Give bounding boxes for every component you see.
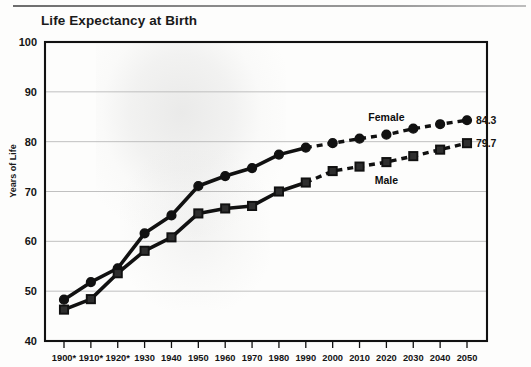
data-point-female-1940 <box>167 211 176 220</box>
x-tick-label-1940: 1940 <box>161 353 182 363</box>
data-point-male-2010 <box>355 162 363 170</box>
data-point-female-1970 <box>248 164 257 173</box>
data-point-female-1910star <box>86 278 95 287</box>
series-label-male: Male <box>375 174 399 186</box>
data-point-male-1950 <box>194 209 202 217</box>
data-point-female-2030 <box>409 124 418 133</box>
data-point-male-2050 <box>463 139 471 147</box>
x-tick-label-1960: 1960 <box>215 353 236 363</box>
data-point-female-1960 <box>221 172 230 181</box>
x-tick-label-2050: 2050 <box>457 353 478 363</box>
series-lines <box>64 120 467 309</box>
data-point-male-2020 <box>382 158 390 166</box>
series-annotations: 84.379.7FemaleMale <box>368 111 496 186</box>
y-tick-label-70: 70 <box>25 186 37 198</box>
chart-page: Life Expectancy at Birth Years of Life 4… <box>0 0 531 367</box>
x-tick-label-1950: 1950 <box>188 353 209 363</box>
data-point-female-2000 <box>328 139 337 148</box>
data-point-male-1960 <box>221 204 229 212</box>
data-point-male-1970 <box>248 202 256 210</box>
data-point-female-1900star <box>60 295 69 304</box>
x-axis-ticks: 1900*1910*1920*1930194019501960197019801… <box>52 341 478 363</box>
data-point-female-1930 <box>140 229 149 238</box>
data-point-male-2040 <box>436 146 444 154</box>
x-tick-label-2020: 2020 <box>376 353 397 363</box>
y-tick-label-90: 90 <box>25 86 37 98</box>
x-tick-label-1910star: 1910* <box>79 353 104 363</box>
data-point-male-2030 <box>409 152 417 160</box>
x-tick-label-1930: 1930 <box>134 353 155 363</box>
y-tick-label-100: 100 <box>19 36 37 48</box>
data-point-male-1940 <box>167 233 175 241</box>
data-point-female-2020 <box>382 130 391 139</box>
end-value-label-male: 79.7 <box>476 137 497 149</box>
y-tick-label-80: 80 <box>25 136 37 148</box>
data-point-female-2010 <box>355 134 364 143</box>
x-tick-label-2040: 2040 <box>430 353 451 363</box>
end-value-label-female: 84.3 <box>476 114 497 126</box>
data-point-male-2000 <box>329 167 337 175</box>
data-point-male-1900star <box>60 306 68 314</box>
y-tick-label-40: 40 <box>25 335 37 347</box>
data-point-female-2040 <box>436 120 445 129</box>
data-point-female-2050 <box>463 116 472 125</box>
line-chart: 405060708090100 1900*1910*1920*193019401… <box>0 0 531 367</box>
x-tick-label-1900star: 1900* <box>52 353 77 363</box>
series-markers <box>60 116 472 314</box>
data-point-male-1990 <box>302 178 310 186</box>
x-tick-label-2000: 2000 <box>322 353 343 363</box>
data-point-male-1980 <box>275 187 283 195</box>
x-tick-label-2010: 2010 <box>349 353 370 363</box>
data-point-male-1930 <box>141 247 149 255</box>
gridlines <box>45 92 487 291</box>
x-tick-label-1970: 1970 <box>242 353 263 363</box>
x-tick-label-2030: 2030 <box>403 353 424 363</box>
data-point-female-1950 <box>194 182 203 191</box>
x-tick-label-1990: 1990 <box>295 353 316 363</box>
x-tick-label-1920star: 1920* <box>106 353 131 363</box>
data-point-male-1910star <box>87 295 95 303</box>
y-tick-label-50: 50 <box>25 285 37 297</box>
data-point-male-1920star <box>114 269 122 277</box>
series-label-female: Female <box>368 111 404 123</box>
x-tick-label-1980: 1980 <box>269 353 290 363</box>
data-point-female-1980 <box>275 150 284 159</box>
y-axis-ticks: 405060708090100 <box>19 36 37 347</box>
y-tick-label-60: 60 <box>25 235 37 247</box>
data-point-female-1990 <box>301 143 310 152</box>
